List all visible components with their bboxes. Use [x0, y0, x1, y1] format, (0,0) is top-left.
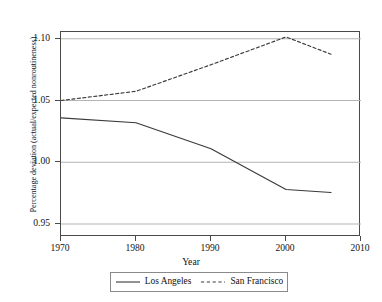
y-tick-mark: [55, 161, 60, 162]
y-tick-mark: [55, 38, 60, 39]
y-tick-label: 1.10: [18, 33, 50, 43]
legend-label-los-angeles: Los Angeles: [145, 277, 192, 286]
y-tick-label: 1.00: [18, 156, 50, 166]
legend-item-san-francisco[interactable]: San Francisco: [200, 277, 283, 286]
x-tick-mark: [360, 236, 361, 241]
y-tick-label: 0.95: [18, 218, 50, 228]
chart-legend: Los Angeles San Francisco: [110, 272, 288, 292]
x-tick-label: 2000: [263, 243, 307, 253]
legend-swatch-dashed-icon: [200, 278, 226, 286]
series-line-san-francisco: [61, 37, 331, 101]
x-tick-label: 1990: [188, 243, 232, 253]
chart-figure: Percentage deviation (actual/expected no…: [0, 0, 382, 302]
plot-area: [60, 31, 360, 236]
x-tick-label: 1980: [113, 243, 157, 253]
x-tick-mark: [60, 236, 61, 241]
legend-item-los-angeles[interactable]: Los Angeles: [115, 277, 192, 286]
x-tick-mark: [210, 236, 211, 241]
x-tick-label: 2010: [338, 243, 382, 253]
legend-label-san-francisco: San Francisco: [230, 277, 283, 286]
x-tick-label: 1970: [38, 243, 82, 253]
x-tick-mark: [285, 236, 286, 241]
plot-canvas: [61, 32, 361, 237]
y-tick-mark: [55, 223, 60, 224]
x-tick-mark: [135, 236, 136, 241]
y-tick-label: 1.05: [18, 95, 50, 105]
series-line-los-angeles: [61, 118, 331, 193]
x-axis-title: Year: [0, 256, 382, 267]
y-axis-title: Percentage deviation (actual/expected no…: [29, 10, 38, 240]
legend-swatch-solid-icon: [115, 278, 141, 286]
y-tick-mark: [55, 100, 60, 101]
